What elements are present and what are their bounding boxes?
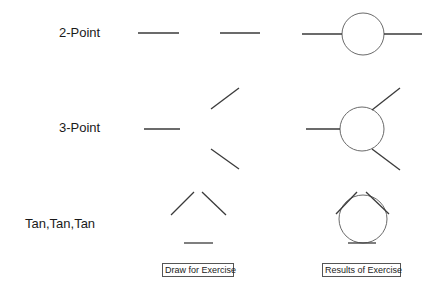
- tan-tan-tan-result-line: [336, 192, 357, 214]
- tan-tan-tan-result-line: [366, 192, 389, 214]
- draw-for-exercise-figures: [138, 33, 260, 243]
- three-point-result-line: [372, 88, 400, 110]
- exercise-diagram: [0, 0, 436, 290]
- two-point-result-circle: [342, 13, 384, 55]
- tan-tan-tan-draw-line: [171, 192, 194, 215]
- three-point-draw-line: [211, 88, 239, 109]
- draw-for-exercise-caption: Draw for Exercise: [162, 263, 234, 277]
- three-point-result-circle: [340, 107, 384, 151]
- results-of-exercise-caption: Results of Exercise: [322, 263, 401, 277]
- tan-tan-tan-draw-line: [202, 192, 226, 215]
- tan-tan-tan-result-circle: [339, 195, 387, 243]
- results-of-exercise-figures: [302, 13, 422, 243]
- three-point-result-line: [372, 149, 400, 170]
- three-point-draw-line: [211, 149, 239, 169]
